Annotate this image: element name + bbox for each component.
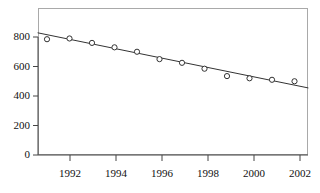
y-axis-label-400: 400 <box>0 90 30 101</box>
x-axis-label-1992: 1992 <box>50 168 90 179</box>
x-axis-label-1996: 1996 <box>142 168 182 179</box>
x-axis-label-1998: 1998 <box>188 168 228 179</box>
x-axis-label-2002: 2002 <box>280 168 320 179</box>
chart-canvas <box>0 0 320 193</box>
chart-container: 800 600 400 200 0 1992 1994 1996 1998 20… <box>0 0 320 193</box>
data-point <box>292 79 297 84</box>
data-point <box>134 49 139 54</box>
x-axis-label-2000: 2000 <box>234 168 274 179</box>
data-point <box>202 66 207 71</box>
y-axis-label-0: 0 <box>0 149 30 160</box>
data-point <box>224 73 229 78</box>
y-axis <box>33 37 38 155</box>
data-point <box>89 40 94 45</box>
y-axis-label-200: 200 <box>0 120 30 131</box>
data-point <box>179 60 184 65</box>
data-point <box>247 76 252 81</box>
data-point <box>112 45 117 50</box>
y-axis-label-800: 800 <box>0 31 30 42</box>
x-axis-label-1994: 1994 <box>96 168 136 179</box>
x-axis <box>38 155 308 161</box>
data-point <box>269 77 274 82</box>
data-point <box>67 36 72 41</box>
y-axis-label-600: 600 <box>0 61 30 72</box>
data-point <box>44 37 49 42</box>
regression-fit-line <box>38 33 308 88</box>
data-point <box>157 57 162 62</box>
